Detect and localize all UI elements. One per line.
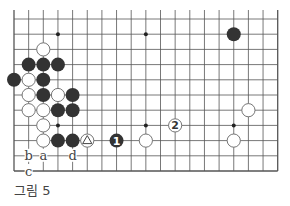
move-number-1: 1 xyxy=(113,135,121,148)
white-stone xyxy=(227,134,240,147)
star-point xyxy=(56,32,60,36)
black-stone xyxy=(51,58,65,72)
black-stone xyxy=(66,88,80,102)
star-point xyxy=(144,123,148,127)
white-stone xyxy=(139,134,152,147)
white-stone xyxy=(22,104,35,117)
black-stone xyxy=(36,58,50,72)
star-point xyxy=(232,123,236,127)
black-stone xyxy=(51,103,65,117)
star-point xyxy=(144,32,148,36)
white-stone xyxy=(51,88,64,101)
move-number-2: 2 xyxy=(171,119,179,132)
black-stone xyxy=(66,103,80,117)
black-stone xyxy=(66,134,80,148)
star-point xyxy=(56,123,60,127)
black-stone xyxy=(7,73,21,87)
black-stone xyxy=(227,27,241,41)
go-board: badc12 xyxy=(0,0,290,180)
point-label-c: c xyxy=(25,164,32,179)
black-stone xyxy=(36,88,50,102)
white-stone xyxy=(37,134,50,147)
white-stone xyxy=(37,119,50,132)
figure-caption: 그림 5 xyxy=(14,180,50,199)
point-label-a: a xyxy=(39,148,47,163)
black-stone xyxy=(36,73,50,87)
white-stone xyxy=(22,73,35,86)
point-label-b: b xyxy=(24,148,32,163)
point-label-d: d xyxy=(68,148,76,163)
white-stone xyxy=(22,88,35,101)
black-stone xyxy=(51,134,65,148)
black-stone xyxy=(22,58,36,72)
white-stone xyxy=(37,43,50,56)
white-stone xyxy=(242,104,255,117)
white-stone xyxy=(37,104,50,117)
